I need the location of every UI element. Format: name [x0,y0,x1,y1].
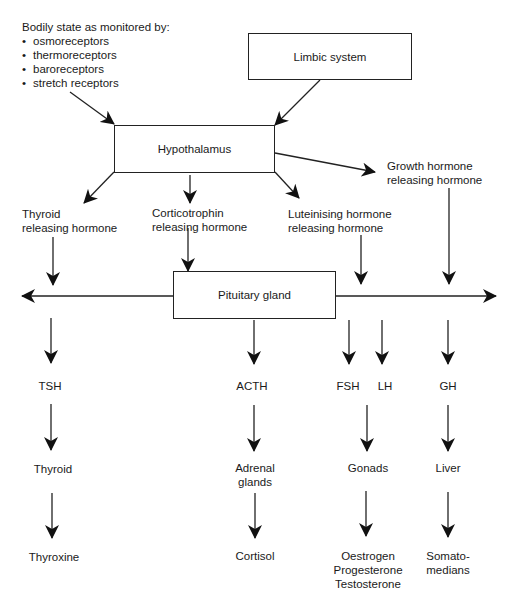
hypothalamus-box: Hypothalamus [114,125,275,173]
crh-label: Corticotrophin releasing hormone [152,206,247,234]
adrenal-line-1: Adrenal [235,461,275,475]
liver-label: Liver [436,461,461,475]
gh-label: GH [439,379,456,393]
tsh-label: TSH [39,379,62,393]
bodily-state-monitor: Bodily state as monitored by: osmorecept… [22,20,170,90]
sex-steroids-label: Oestrogen Progesterone Testosterone [333,549,402,591]
oestrogen-label: Oestrogen [333,549,402,563]
crh-line-2: releasing hormone [152,220,247,234]
lhrh-line-1: Luteinising hormone [288,207,392,221]
receptor-list: osmoreceptors thermoreceptors barorecept… [22,34,170,90]
gonads-label: Gonads [348,461,388,475]
pituitary-gland-box: Pituitary gland [173,271,336,319]
acth-label: ACTH [236,379,267,393]
trh-line-1: Thyroid [22,207,117,221]
arrow-to-trh [84,172,114,203]
arrow-to-ghrh [275,153,375,172]
crh-line-1: Corticotrophin [152,206,247,220]
adrenal-line-2: glands [235,475,275,489]
receptor-item: osmoreceptors [22,34,170,48]
testosterone-label: Testosterone [333,577,402,591]
receptor-item: stretch receptors [22,76,170,90]
hypothalamus-label: Hypothalamus [158,143,232,155]
thyroid-label: Thyroid [34,462,72,476]
lhrh-label: Luteinising hormone releasing hormone [288,207,392,235]
ghrh-line-2: releasing hormone [387,173,482,187]
monitor-title: Bodily state as monitored by: [22,20,170,34]
fsh-label: FSH [337,379,360,393]
limbic-system-box: Limbic system [248,33,412,80]
somatomedians-line-2: medians [426,563,469,577]
adrenal-glands-label: Adrenal glands [235,461,275,489]
thyroxine-label: Thyroxine [29,550,80,564]
somatomedians-line-1: Somato- [426,549,469,563]
arrow-to-lhrh [275,172,299,198]
trh-line-2: releasing hormone [22,221,117,235]
ghrh-line-1: Growth hormone [387,159,482,173]
receptor-item: thermoreceptors [22,48,170,62]
arrow-monitor-to-hypothalamus [70,92,114,124]
cortisol-label: Cortisol [236,549,275,563]
trh-label: Thyroid releasing hormone [22,207,117,235]
lhrh-line-2: releasing hormone [288,221,392,235]
lh-label: LH [378,379,393,393]
pituitary-gland-label: Pituitary gland [218,289,291,301]
progesterone-label: Progesterone [333,563,402,577]
somatomedians-label: Somato- medians [426,549,469,577]
arrow-limbic-to-hypothalamus [275,80,320,125]
limbic-system-label: Limbic system [294,51,367,63]
ghrh-label: Growth hormone releasing hormone [387,159,482,187]
receptor-item: baroreceptors [22,62,170,76]
